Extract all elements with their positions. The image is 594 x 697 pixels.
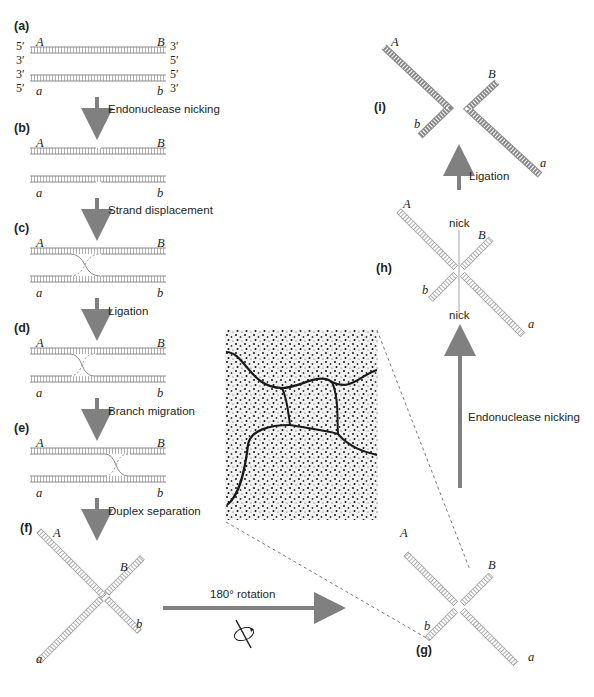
marker-A: A [36,36,44,49]
marker-b: b [157,85,163,98]
marker-b: b [157,187,163,200]
end-5prime: 5′ [16,82,25,94]
marker-B: B [157,337,165,350]
marker-A: A [36,437,44,450]
marker-A: A [400,527,408,540]
end-3prime: 3′ [170,82,179,94]
marker-B: B [488,559,496,572]
marker-a: a [36,85,42,98]
marker-b: b [157,287,163,300]
marker-a: a [540,157,546,170]
end-5prime: 5′ [170,54,179,66]
panel-label-b: (b) [14,122,30,135]
marker-B: B [488,68,496,81]
end-3prime: 3′ [170,40,179,52]
panel-label-i: (i) [374,101,386,114]
electron-micrograph [225,330,378,520]
panel-label-c: (c) [14,222,29,235]
rotation-icon [233,620,256,648]
panel-label-h: (h) [376,262,392,275]
end-5prime: 5′ [16,40,25,52]
marker-b: b [424,620,430,633]
marker-a: a [36,387,42,400]
marker-a: a [528,318,534,331]
end-3prime: 3′ [16,54,25,66]
panel-f-junction [37,529,144,663]
marker-a: a [36,653,42,666]
marker-B: B [157,36,165,49]
end-3prime: 3′ [16,68,25,80]
panel-label-a: (a) [14,20,29,33]
step-label-endonuclease-nicking: Endonuclease nicking [108,104,220,116]
marker-b: b [414,118,420,131]
marker-A: A [403,198,411,211]
nick-label-bottom: nick [449,310,469,322]
marker-a: a [36,187,42,200]
nick-label-top: nick [449,218,469,230]
marker-A: A [53,527,61,540]
marker-B: B [157,137,165,150]
step-label-ligation-2: Ligation [469,171,509,183]
marker-b: b [157,487,163,500]
marker-b: b [136,618,142,631]
holliday-model-diagram [0,0,594,697]
marker-a: a [36,487,42,500]
step-label-endonuclease-nicking-2: Endonuclease nicking [468,412,580,424]
panel-i-products [384,47,540,175]
panel-label-d: (d) [14,322,30,335]
step-label-strand-displacement: Strand displacement [108,205,213,217]
marker-A: A [391,36,399,49]
marker-A: A [36,337,44,350]
marker-B: B [157,437,165,450]
marker-a: a [36,287,42,300]
marker-B: B [157,237,165,250]
panel-d-duplexes [30,348,166,382]
panel-b-duplexes [30,148,166,182]
step-label-branch-migration: Branch migration [108,406,195,418]
marker-b: b [422,284,428,297]
panel-e-duplexes [30,448,166,482]
panel-label-f: (f) [20,522,33,535]
end-5prime: 5′ [170,68,179,80]
step-label-ligation: Ligation [108,306,148,318]
panel-label-g: (g) [416,644,432,657]
step-label-duplex-separation: Duplex separation [108,506,201,518]
marker-a: a [528,651,534,664]
marker-b: b [157,387,163,400]
marker-B: B [120,561,128,574]
marker-A: A [36,237,44,250]
panel-a-duplexes [30,47,166,81]
marker-A: A [36,137,44,150]
panel-label-e: (e) [14,422,29,435]
marker-B: B [478,229,486,242]
panel-c-duplexes [30,248,166,282]
step-label-rotation: 180° rotation [210,589,275,601]
